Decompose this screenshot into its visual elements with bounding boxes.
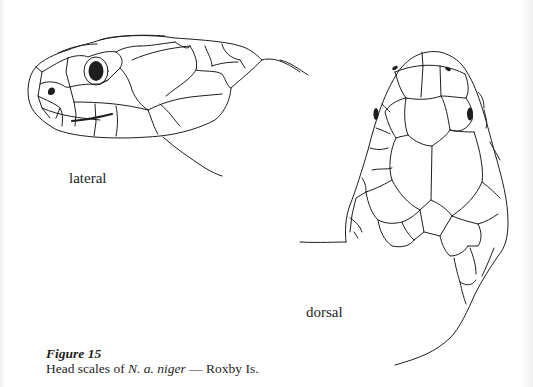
caption-taxon: N. a. niger	[128, 361, 186, 376]
lateral-head-drawing	[28, 35, 300, 176]
lateral-view-label: lateral	[69, 170, 106, 187]
figure-number: Figure 15	[46, 346, 259, 361]
caption-text: Head scales of N. a. niger — Roxby Is.	[46, 361, 259, 376]
dorsal-view-label: dorsal	[306, 304, 343, 321]
caption-prefix: Head scales of	[46, 361, 128, 376]
caption-suffix: — Roxby Is.	[186, 361, 259, 376]
figure-caption: Figure 15 Head scales of N. a. niger — R…	[46, 346, 259, 376]
